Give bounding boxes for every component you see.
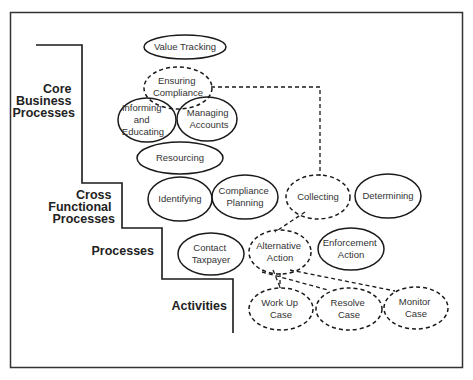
node-collecting: Collecting — [286, 175, 350, 219]
svg-text:Managing Accounts: Managing Accounts — [187, 107, 231, 130]
node-work-up-case: Work Up Case — [249, 288, 313, 330]
svg-text:Informing and Educ: Informing and Educating — [122, 102, 164, 137]
svg-text:Work Up Case: Work Up Case — [261, 297, 300, 320]
level-label-cross-functional-processes: Cross Functional Processes — [48, 188, 115, 226]
connector-alternative-to-resolve — [262, 272, 328, 290]
node-contact-taxpayer: Contact Taxpayer — [178, 233, 244, 275]
svg-text:Determining: Determining — [362, 190, 413, 201]
node-resourcing: Resourcing — [137, 142, 223, 174]
level-label-core-business-processes: Core Business Processes — [12, 82, 75, 120]
connector-ensuring-to-collecting — [211, 87, 320, 176]
node-alternative-action: Alternative Action — [249, 230, 311, 274]
node-monitor-case: Monitor Case — [384, 287, 448, 329]
process-hierarchy-diagram: Core Business Processes Cross Functional… — [0, 0, 473, 380]
svg-text:Value Tracking: Value Tracking — [154, 41, 216, 52]
svg-text:Compliance Planning: Compliance Planning — [219, 185, 272, 208]
node-managing-accounts: Managing Accounts — [177, 97, 237, 141]
node-identifying: Identifying — [148, 177, 212, 221]
node-informing-and-educating: Informing and Educating — [118, 98, 176, 142]
svg-text:Resolve Case: Resolve Case — [331, 297, 368, 320]
svg-text:Resourcing: Resourcing — [156, 152, 204, 163]
connector-collecting-to-alternative — [275, 212, 305, 232]
svg-text:Enforcement Action: Enforcement Action — [323, 237, 380, 260]
connector-alternative-to-workup — [273, 270, 280, 287]
svg-text:Alternative Action: Alternative Action — [256, 240, 304, 263]
svg-text:Identifying: Identifying — [158, 193, 201, 204]
svg-text:Contact Taxpayer: Contact Taxpayer — [192, 242, 231, 265]
svg-text:Ensuring Compliance: Ensuring Compliance — [153, 75, 203, 98]
svg-text:Monitor Case: Monitor Case — [399, 296, 433, 319]
svg-text:Collecting: Collecting — [297, 191, 339, 202]
node-value-tracking: Value Tracking — [144, 35, 226, 59]
level-label-activities: Activities — [171, 299, 227, 313]
level-label-processes: Processes — [91, 244, 154, 258]
node-determining: Determining — [355, 174, 421, 218]
node-compliance-planning: Compliance Planning — [212, 175, 278, 219]
node-enforcement-action: Enforcement Action — [318, 228, 384, 270]
node-resolve-case: Resolve Case — [316, 288, 382, 330]
